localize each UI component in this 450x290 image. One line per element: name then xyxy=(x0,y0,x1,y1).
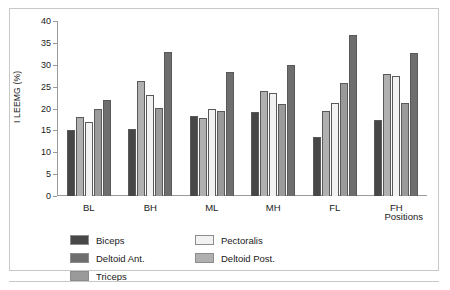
bar[interactable] xyxy=(313,137,321,196)
figure-container: I LEEMG (%) 0510152025303540 BLBHMLMHFLF… xyxy=(0,0,450,290)
bar[interactable] xyxy=(103,100,111,196)
chart-legend: BicepsPectoralisDeltoid Ant.Deltoid Post… xyxy=(70,231,420,285)
legend-item[interactable]: Biceps xyxy=(70,231,195,249)
bar-group: ML xyxy=(181,21,243,196)
plot-area: I LEEMG (%) 0510152025303540 BLBHMLMHFLF… xyxy=(10,9,440,219)
x-axis-title: Positions xyxy=(57,211,427,222)
bar-groups: BLBHMLMHFLFH xyxy=(58,21,427,196)
bar[interactable] xyxy=(331,103,339,196)
y-tick-label: 25 xyxy=(41,82,51,92)
legend-label: Deltoid Ant. xyxy=(96,253,145,264)
bar[interactable] xyxy=(401,103,409,196)
bar[interactable] xyxy=(410,53,418,196)
bar-group: BL xyxy=(58,21,120,196)
bar[interactable] xyxy=(383,74,391,196)
legend-label: Deltoid Post. xyxy=(221,253,275,264)
bar-group: BH xyxy=(120,21,182,196)
bar[interactable] xyxy=(278,104,286,196)
legend-item[interactable]: Deltoid Ant. xyxy=(70,249,195,267)
bar[interactable] xyxy=(67,130,75,196)
legend-item[interactable]: Pectoralis xyxy=(195,231,320,249)
y-tick-mark xyxy=(53,130,57,131)
bar[interactable] xyxy=(155,108,163,196)
bar[interactable] xyxy=(340,83,348,196)
legend-label: Biceps xyxy=(96,235,125,246)
legend-swatch xyxy=(70,271,89,281)
bar[interactable] xyxy=(128,129,136,196)
y-tick-mark xyxy=(53,21,57,22)
bar[interactable] xyxy=(85,122,93,196)
legend-label: Triceps xyxy=(96,271,127,282)
bar[interactable] xyxy=(322,111,330,196)
bar[interactable] xyxy=(137,81,145,197)
bar[interactable] xyxy=(251,112,259,196)
y-tick-mark xyxy=(53,65,57,66)
bar[interactable] xyxy=(260,91,268,196)
y-tick-label: 30 xyxy=(41,60,51,70)
y-tick-label: 40 xyxy=(41,16,51,26)
y-tick-label: 20 xyxy=(41,104,51,114)
bar-group: FH xyxy=(366,21,428,196)
legend-swatch xyxy=(70,235,89,245)
bar[interactable] xyxy=(269,93,277,196)
bar[interactable] xyxy=(164,52,172,196)
bottom-divider xyxy=(9,281,439,282)
y-tick-mark xyxy=(53,152,57,153)
bar[interactable] xyxy=(374,120,382,196)
legend-label: Pectoralis xyxy=(221,235,263,246)
bar-group: FL xyxy=(304,21,366,196)
y-tick-label: 0 xyxy=(46,191,51,201)
bar[interactable] xyxy=(190,116,198,197)
axes: 0510152025303540 BLBHMLMHFLFH xyxy=(57,21,427,196)
y-tick-mark xyxy=(53,174,57,175)
legend-item[interactable]: Triceps xyxy=(70,267,195,285)
y-tick-mark xyxy=(53,87,57,88)
chart-panel: I LEEMG (%) 0510152025303540 BLBHMLMHFLF… xyxy=(9,8,439,271)
legend-swatch xyxy=(195,235,214,245)
y-tick-label: 35 xyxy=(41,38,51,48)
bar[interactable] xyxy=(287,65,295,196)
bar[interactable] xyxy=(199,118,207,196)
legend-item[interactable]: Deltoid Post. xyxy=(195,249,320,267)
y-tick-mark xyxy=(53,43,57,44)
bar[interactable] xyxy=(217,111,225,196)
y-tick-mark xyxy=(53,196,57,197)
bar[interactable] xyxy=(76,117,84,196)
legend-swatch xyxy=(70,253,89,263)
bar[interactable] xyxy=(208,109,216,196)
bar[interactable] xyxy=(392,76,400,196)
bar-group: MH xyxy=(243,21,305,196)
bar[interactable] xyxy=(94,109,102,197)
y-tick-label: 5 xyxy=(46,169,51,179)
bar[interactable] xyxy=(226,72,234,196)
y-tick-label: 15 xyxy=(41,125,51,135)
bar[interactable] xyxy=(349,35,357,196)
y-axis-title: I LEEMG (%) xyxy=(12,47,26,147)
legend-swatch xyxy=(195,253,214,263)
y-tick-mark xyxy=(53,109,57,110)
y-tick-label: 10 xyxy=(41,147,51,157)
bar[interactable] xyxy=(146,95,154,196)
